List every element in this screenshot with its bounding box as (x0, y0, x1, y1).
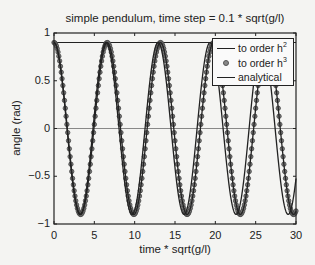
x-tick-label: 0 (44, 229, 64, 241)
x-tick-label: 25 (246, 229, 266, 241)
line-sample-icon (217, 77, 235, 78)
legend-item-analytical: analytical (213, 70, 293, 84)
legend-item-h2: to order h2 (213, 41, 293, 55)
x-tick-label: 5 (84, 229, 104, 241)
x-tick-label: 30 (286, 229, 306, 241)
x-axis-label: time * sqrt(g/l) (54, 243, 296, 255)
y-axis-label: angle (rad) (10, 72, 22, 128)
y-tick-label: −1 (20, 217, 50, 229)
legend: to order h2 to order h3 analytical (212, 38, 294, 86)
y-tick-label: 0.5 (20, 74, 50, 86)
x-tick-label: 15 (165, 229, 185, 241)
x-tick-label: 20 (205, 229, 225, 241)
x-tick-label: 10 (125, 229, 145, 241)
y-tick-label: 1 (20, 26, 50, 38)
y-tick-label: 0 (20, 122, 50, 134)
line-sample-icon (217, 48, 235, 49)
y-tick-label: −0.5 (20, 169, 50, 181)
legend-item-h3: to order h3 (213, 56, 293, 70)
